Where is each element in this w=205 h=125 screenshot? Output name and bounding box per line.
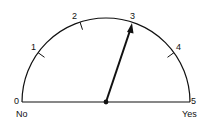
gauge-arc	[22, 18, 190, 102]
semicircle-gauge	[0, 0, 205, 125]
tick-4	[168, 53, 175, 58]
caption-yes: Yes	[182, 110, 197, 119]
scale-label-3: 3	[130, 12, 135, 21]
tick-2	[80, 22, 83, 30]
caption-no: No	[16, 110, 28, 119]
scale-label-1: 1	[31, 43, 36, 52]
gauge-needle	[106, 29, 131, 102]
scale-label-0: 0	[14, 97, 19, 106]
tick-1	[38, 53, 45, 58]
needle-arrowhead	[127, 23, 134, 34]
needle-pivot	[104, 100, 109, 105]
scale-label-2: 2	[72, 12, 77, 21]
scale-label-5: 5	[191, 97, 196, 106]
scale-label-4: 4	[176, 43, 181, 52]
